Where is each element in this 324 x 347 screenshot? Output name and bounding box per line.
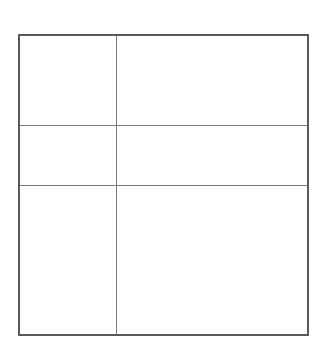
grid-cell-r2-c1 — [117, 186, 307, 334]
grid-cell-r2-c0 — [20, 186, 116, 334]
grid-cell-r0-c0 — [20, 36, 116, 125]
grid-cell-r1-c1 — [117, 126, 307, 185]
diagram-canvas — [0, 0, 324, 347]
grid-cell-r1-c0 — [20, 126, 116, 185]
grid-cell-r0-c1 — [117, 36, 307, 125]
grid-outer-border — [18, 34, 309, 336]
